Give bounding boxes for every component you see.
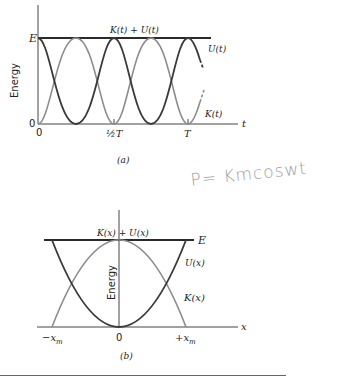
x-axis-label-b: x <box>241 321 247 332</box>
x-half-label-a: ½T <box>106 128 124 139</box>
y-axis-label-b: Energy <box>106 265 117 300</box>
x-zero-label-a: 0 <box>36 127 42 138</box>
k-label-b: K(x) <box>183 292 205 303</box>
y-axis-label-a: Energy <box>9 63 20 98</box>
x-pos-label-b: +xm <box>175 332 196 346</box>
u-label-a: U(t) <box>208 44 227 54</box>
caption-b: (b) <box>120 351 133 361</box>
u-curve-a-dashed <box>200 60 203 68</box>
figure-b: K(x) + U(x) E U(x) K(x) x Energy −xm 0 +… <box>37 210 247 361</box>
k-curve-a-dashed <box>200 90 204 102</box>
figure-a: E 0 0 ½T T t K(t) + U(t) U(t) K(t) Energ… <box>9 5 247 165</box>
sum-label-a: K(t) + U(t) <box>109 25 159 35</box>
u-curve-a <box>38 38 200 124</box>
k-curve-a <box>38 38 200 124</box>
u-label-b: U(x) <box>185 258 205 268</box>
x-zero-label-b: 0 <box>116 332 122 343</box>
x-t-label-a: T <box>184 128 192 139</box>
e-label-a: E <box>28 32 37 45</box>
y-zero-label-a: 0 <box>29 118 35 129</box>
x-axis-label-a: t <box>242 118 247 129</box>
caption-a: (a) <box>117 155 130 165</box>
x-neg-label-b: −xm <box>42 332 63 346</box>
handwritten-note: P= Kmcoswt <box>190 158 308 190</box>
figure-canvas: E 0 0 ½T T t K(t) + U(t) U(t) K(t) Energ… <box>0 0 347 377</box>
sum-label-b: K(x) + U(x) <box>96 228 149 238</box>
e-label-b: E <box>197 234 206 247</box>
k-label-a: K(t) <box>204 109 223 119</box>
